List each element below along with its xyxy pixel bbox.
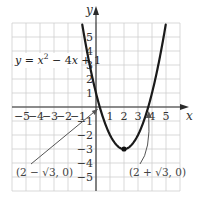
parabola-graph: x y −5−4−3−2−112345−5−4−3−2−112345 y = x… <box>0 0 198 201</box>
y-tick-label: −1 <box>77 115 93 128</box>
x-tick-label: 2 <box>121 110 128 123</box>
x-tick-label: 3 <box>135 110 142 123</box>
y-tick-label: −5 <box>77 171 93 184</box>
y-tick-label: 5 <box>86 31 93 44</box>
y-tick-label: −3 <box>77 143 93 156</box>
y-tick-label: −4 <box>77 157 93 170</box>
y-tick-label: 1 <box>86 87 93 100</box>
y-axis-label: y <box>85 3 93 17</box>
pointer-right <box>140 116 149 164</box>
root-right-label: (2 + √3, 0) <box>129 166 186 178</box>
root-left-label: (2 − √3, 0) <box>16 166 73 178</box>
x-tick-label: 1 <box>107 110 114 123</box>
x-axis-label: x <box>186 109 193 123</box>
x-tick-label: 5 <box>163 110 170 123</box>
y-tick-label: −2 <box>77 129 93 142</box>
vertex-point <box>121 146 126 151</box>
y-axis-arrow-icon <box>93 6 99 15</box>
